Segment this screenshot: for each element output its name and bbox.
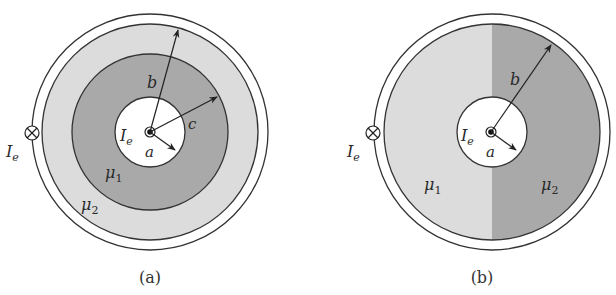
external-current-label-b: Ie: [346, 142, 360, 164]
external-current-cross-icon: [366, 126, 380, 140]
external-current-label-a: Ie: [5, 142, 19, 164]
radius-b-label-a: b: [147, 73, 157, 92]
figure-a: Ie Ie a b c μ1 μ2 (a): [5, 14, 268, 287]
external-current-cross-icon: [25, 126, 39, 140]
radius-a-label-b: a: [486, 143, 495, 161]
caption-b: (b): [471, 268, 494, 287]
figure-b: Ie Ie a b μ1 μ2 (b): [346, 14, 610, 287]
radius-b-label-b: b: [510, 70, 520, 89]
coaxial-diagrams: Ie Ie a b c μ1 μ2 (a): [0, 0, 616, 295]
radius-a-label-a: a: [145, 143, 154, 161]
radius-c-label-a: c: [188, 115, 197, 133]
caption-a: (a): [139, 268, 161, 287]
